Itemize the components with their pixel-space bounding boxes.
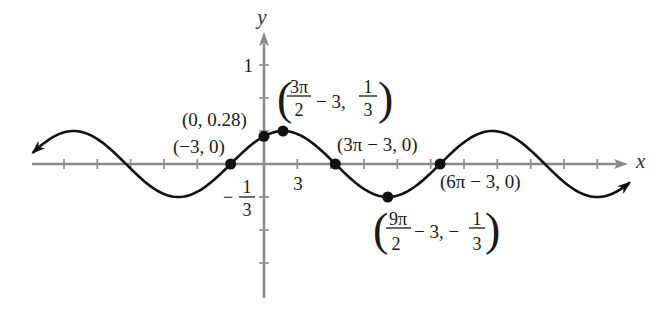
label-point-0-028: (0, 0.28): [182, 109, 247, 131]
numerator: 9π: [389, 209, 407, 229]
denominator: 2: [295, 100, 304, 120]
minus-sign: −: [223, 187, 233, 207]
label-point-neg3-0: (−3, 0): [173, 136, 225, 158]
y-axis-label: y: [255, 5, 267, 29]
denominator: 3: [364, 100, 373, 120]
y-axis-arrow-icon: [259, 32, 269, 46]
denominator: 3: [473, 234, 482, 254]
key-point-dot: [259, 131, 270, 142]
key-point-dot: [382, 191, 393, 202]
numerator: 1: [473, 209, 482, 229]
y-tick-label-neg-third: − 1 3: [223, 177, 255, 220]
denominator: 2: [392, 234, 401, 254]
x-tick-label-3: 3: [293, 173, 303, 194]
close-paren: ): [485, 204, 500, 255]
open-paren: (: [373, 204, 388, 255]
numerator: 1: [364, 77, 373, 97]
key-point-dot: [435, 159, 446, 170]
key-point-dot: [225, 159, 236, 170]
key-point-dot: [278, 126, 289, 137]
sine-graph: y x 1 3 − 1 3 (−3, 0) (0, 0.28) (3π − 3,…: [0, 0, 660, 314]
x-axis-label: x: [635, 149, 646, 173]
label-point-max: ( 3π 2 − 3, 1 3 ): [277, 73, 393, 124]
y-tick-label-1: 1: [244, 55, 254, 76]
middle-text: − 3, −: [414, 221, 459, 242]
numerator: 3π: [290, 77, 308, 97]
denominator: 3: [243, 200, 252, 220]
key-point-dot: [330, 159, 341, 170]
label-point-6pi-minus-3: (6π − 3, 0): [440, 171, 520, 193]
label-point-min: ( 9π 2 − 3, − 1 3 ): [373, 204, 500, 255]
close-paren: ): [378, 73, 393, 124]
label-point-3pi-minus-3: (3π − 3, 0): [337, 134, 417, 156]
middle-text: − 3,: [316, 91, 346, 112]
numerator: 1: [243, 177, 252, 197]
